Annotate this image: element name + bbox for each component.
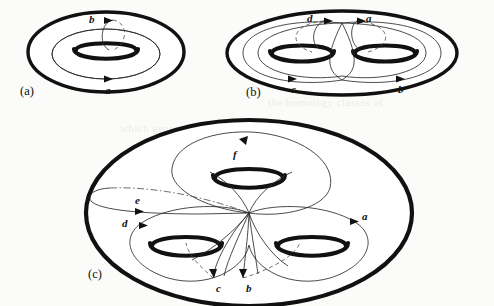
- cycle-label-c-b: c: [291, 83, 296, 95]
- cycle-label-b-a: b: [89, 13, 95, 25]
- panel-c-genus-3-surface: f d a e c b: [86, 120, 412, 306]
- cycle-label-d-c: d: [122, 217, 128, 229]
- panel-a-genus-1-torus: b a (a): [20, 12, 184, 98]
- cycle-label-b-b: b: [398, 83, 404, 95]
- panel-label-a: (a): [20, 84, 34, 98]
- cycle-label-c-c: c: [216, 282, 221, 294]
- cycle-label-e-c: e: [135, 194, 140, 206]
- cycle-label-a-c: a: [362, 210, 368, 222]
- panel-label-c: (c): [88, 267, 102, 281]
- cycle-label-b-c: b: [246, 282, 252, 294]
- figure-page: a compact surface of genusthe homology c…: [0, 0, 494, 306]
- panel-label-b: (b): [246, 85, 261, 99]
- cycle-label-a-b: a: [366, 12, 372, 24]
- topology-figure: b a (a) c b: [0, 0, 494, 306]
- cycle-label-d-b: d: [307, 12, 313, 24]
- panel-b-genus-2-surface: c b d a (b): [227, 11, 457, 99]
- cycle-label-a-a: a: [105, 84, 111, 96]
